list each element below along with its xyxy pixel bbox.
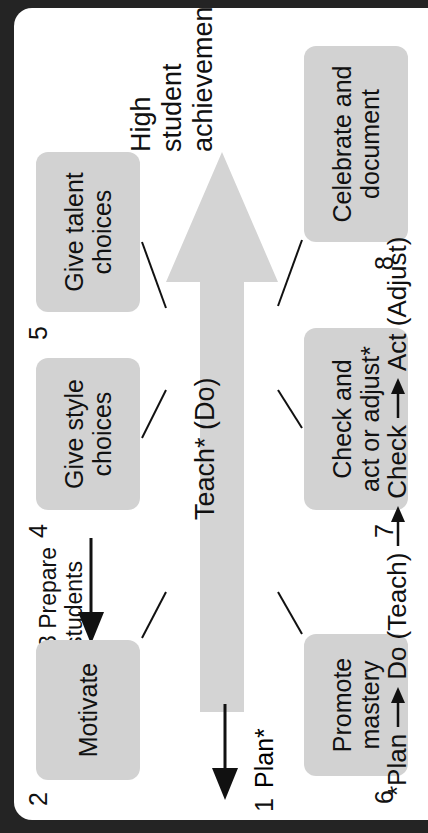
footnote-part-act: Act (Adjust): [382, 237, 413, 371]
step-box-give-style-choices-line1: Give style: [60, 379, 88, 489]
step-box-motivate-label: Motivate: [74, 663, 102, 757]
step-box-give-talent-choices-line2: choices: [88, 190, 116, 275]
step-number-2: 2: [24, 792, 53, 806]
arrow-right-icon: [390, 506, 406, 546]
step-box-give-talent-choices[interactable]: Give talent choices: [36, 152, 140, 312]
rotated-diagram-canvas: Teach* (Do) High student achievement 1 P…: [14, 8, 428, 820]
image-frame: Teach* (Do) High student achievement 1 P…: [0, 0, 428, 833]
footnote-pdca-cycle: *Plan Do (Teach) Check Act (Adjust): [382, 237, 413, 796]
footnote-part-plan: *Plan: [382, 734, 413, 796]
step-box-celebrate-and-document[interactable]: Celebrate and document: [304, 46, 408, 242]
step-box-celebrate-and-document-line2: document: [356, 89, 384, 199]
step-box-motivate[interactable]: Motivate: [36, 640, 140, 780]
arrow-right-icon: [390, 378, 406, 418]
arrow-right-icon: [390, 687, 406, 727]
step-box-give-talent-choices-line1: Give talent: [60, 172, 88, 292]
step-box-check-and-act-line1: Check and: [328, 359, 356, 479]
diagram-card: Teach* (Do) High student achievement 1 P…: [14, 8, 428, 820]
step-box-promote-mastery-line1: Promote: [328, 658, 356, 752]
footnote-part-do: Do (Teach): [382, 553, 413, 680]
step-box-celebrate-and-document-line1: Celebrate and: [328, 65, 356, 222]
step-box-give-style-choices[interactable]: Give style choices: [36, 358, 140, 510]
step-box-give-style-choices-line2: choices: [88, 392, 116, 477]
step-box-check-and-act-line2: act or adjust*: [356, 346, 384, 492]
footnote-part-check: Check: [382, 425, 413, 499]
step-number-4: 4: [24, 524, 53, 538]
step-box-promote-mastery-line2: mastery: [356, 661, 384, 750]
step-number-5: 5: [24, 326, 53, 340]
